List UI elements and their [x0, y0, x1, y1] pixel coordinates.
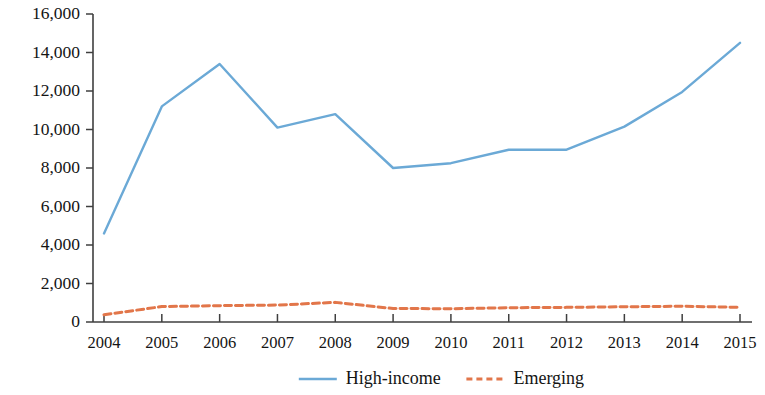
y-tick-label: 16,000 [32, 3, 80, 23]
y-tick-label: 4,000 [41, 234, 81, 254]
x-tick-label: 2006 [203, 333, 236, 352]
chart-canvas: 02,0004,0006,0008,00010,00012,00014,0001… [0, 0, 765, 395]
y-tick-label: 0 [71, 311, 80, 331]
x-tick-label: 2005 [145, 333, 178, 352]
x-tick-label: 2013 [608, 333, 641, 352]
legend-label-high-income: High-income [346, 368, 441, 388]
y-tick-label: 14,000 [32, 42, 80, 62]
x-tick-label: 2004 [88, 333, 121, 352]
x-tick-label: 2015 [724, 333, 757, 352]
x-tick-label: 2012 [550, 333, 583, 352]
x-tick-label: 2007 [261, 333, 294, 352]
line-chart: 02,0004,0006,0008,00010,00012,00014,0001… [0, 0, 765, 395]
y-tick-label: 2,000 [41, 273, 81, 293]
y-tick-label: 10,000 [32, 119, 80, 139]
x-tick-label: 2008 [319, 333, 352, 352]
x-tick-label: 2011 [493, 333, 525, 352]
y-tick-label: 6,000 [41, 196, 81, 216]
y-tick-label: 8,000 [41, 157, 81, 177]
x-tick-label: 2014 [666, 333, 699, 352]
y-tick-label: 12,000 [32, 80, 80, 100]
x-tick-label: 2009 [377, 333, 410, 352]
legend-label-emerging: Emerging [513, 368, 584, 388]
x-tick-label: 2010 [434, 333, 467, 352]
